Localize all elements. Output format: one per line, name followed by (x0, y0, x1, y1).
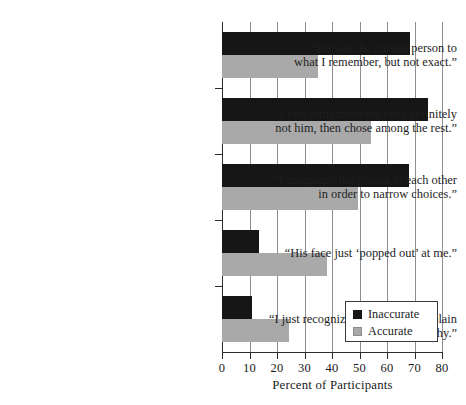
category-label-line: “He was the closest person to (256, 41, 457, 56)
legend-item-accurate: Accurate (353, 323, 437, 339)
x-axis-tick (277, 353, 278, 359)
category-label-2: “I compared the photos to each otherin o… (256, 173, 466, 202)
y-axis-tick (215, 88, 222, 89)
x-axis-tick (415, 353, 416, 359)
bar-inaccurate-4 (222, 296, 252, 319)
legend-label-accurate: Accurate (368, 324, 412, 339)
y-axis-tick (215, 286, 222, 287)
category-label-line: what I remember, but not exact.” (256, 55, 457, 70)
x-axis-tick (360, 353, 361, 359)
legend-item-inaccurate: Inaccurate (353, 306, 437, 322)
category-label-1: “I first eliminated the ones definitelyn… (256, 107, 466, 136)
legend-swatch-accurate (353, 327, 362, 336)
y-axis-tick (215, 220, 222, 221)
x-axis-title: Percent of Participants (222, 378, 443, 393)
category-label-0: “He was the closest person towhat I reme… (256, 41, 466, 70)
category-label-3: “His face just ‘popped out’ at me.” (256, 246, 466, 261)
x-axis-tick (250, 353, 251, 359)
y-axis-tick (215, 154, 222, 155)
x-axis-tick (332, 353, 333, 359)
legend-label-inaccurate: Inaccurate (368, 307, 419, 322)
bar-inaccurate-3 (222, 230, 259, 253)
chart-legend: Inaccurate Accurate (345, 301, 438, 342)
category-label-line: “I compared the photos to each other (256, 173, 457, 188)
category-label-line: in order to narrow choices.” (256, 187, 457, 202)
x-axis-tick (442, 353, 443, 359)
x-axis-tick-label: 80 (422, 361, 462, 376)
x-axis-tick (387, 353, 388, 359)
x-axis-tick (222, 353, 223, 359)
category-label-line: “His face just ‘popped out’ at me.” (256, 246, 457, 261)
category-label-line: not him, then chose among the rest.” (256, 121, 457, 136)
category-label-line: “I first eliminated the ones definitely (256, 107, 457, 122)
legend-swatch-inaccurate (353, 310, 362, 319)
bar-chart: 01020304050607080 “He was the closest pe… (0, 0, 466, 405)
x-axis-tick (305, 353, 306, 359)
